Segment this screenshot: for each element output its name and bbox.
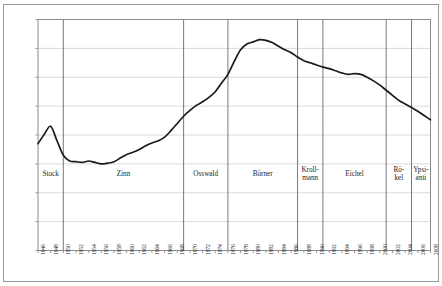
x-axis-tick-label: 1998 <box>369 244 375 255</box>
era-label-börner: Börner <box>228 171 298 178</box>
x-axis-tick-label: 1996 <box>357 244 363 255</box>
era-label-line: mann <box>298 175 323 183</box>
era-label-osswald: Osswald <box>184 171 228 178</box>
x-axis-tick-label: 1986 <box>293 244 299 255</box>
x-axis-tick-label: 1980 <box>255 244 261 255</box>
x-axis-tick-label: 1946 <box>40 244 46 255</box>
x-axis-tick-label: 1992 <box>331 244 337 255</box>
x-axis-tick-label: 2008 <box>433 244 439 255</box>
era-label-rökel: Rö-kel <box>386 167 411 182</box>
x-axis-tick-label: 1982 <box>268 244 274 255</box>
chart-root: 0200004000060000800001000001200001400001… <box>0 0 442 286</box>
x-axis-labels: 1946194819501952195419561958196019621964… <box>0 0 442 286</box>
era-label-zinn: Zinn <box>63 171 183 178</box>
x-axis-tick-label: 1972 <box>205 244 211 255</box>
era-label-line: Stock <box>38 171 63 178</box>
x-axis-tick-label: 1990 <box>319 244 325 255</box>
x-axis-tick-label: 2000 <box>382 244 388 255</box>
x-axis-tick-label: 1974 <box>217 244 223 255</box>
x-axis-tick-label: 1962 <box>141 244 147 255</box>
era-label-eichel: Eichel <box>323 171 386 178</box>
x-axis-tick-label: 1966 <box>167 244 173 255</box>
era-label-stock: Stock <box>38 171 63 178</box>
x-axis-tick-label: 1956 <box>103 244 109 255</box>
era-label-line: Börner <box>228 171 298 178</box>
x-axis-tick-label: 2002 <box>395 244 401 255</box>
era-label-line: anti <box>412 175 431 183</box>
x-axis-tick-label: 1948 <box>53 244 59 255</box>
x-axis-tick-label: 1952 <box>78 244 84 255</box>
x-axis-tick-label: 1978 <box>243 244 249 255</box>
x-axis-tick-label: 1968 <box>179 244 185 255</box>
x-axis-tick-label: 1994 <box>344 244 350 255</box>
x-axis-tick-label: 1950 <box>65 244 71 255</box>
x-axis-tick-label: 1958 <box>116 244 122 255</box>
x-axis-tick-label: 1970 <box>192 244 198 255</box>
x-axis-tick-label: 1988 <box>306 244 312 255</box>
x-axis-tick-label: 2004 <box>407 244 413 255</box>
era-label-krollmann: Kroll-mann <box>298 167 323 182</box>
x-axis-tick-label: 1984 <box>281 244 287 255</box>
x-axis-tick-label: 1964 <box>154 244 160 255</box>
era-label-line: kel <box>386 175 411 183</box>
era-label-line: Zinn <box>63 171 183 178</box>
x-axis-tick-label: 1960 <box>129 244 135 255</box>
era-label-ypsilanti: Ypsi-anti <box>412 167 431 182</box>
era-label-line: Osswald <box>184 171 228 178</box>
x-axis-tick-label: 1954 <box>91 244 97 255</box>
x-axis-tick-label: 1976 <box>230 244 236 255</box>
era-label-line: Eichel <box>323 171 386 178</box>
x-axis-tick-label: 2006 <box>420 244 426 255</box>
